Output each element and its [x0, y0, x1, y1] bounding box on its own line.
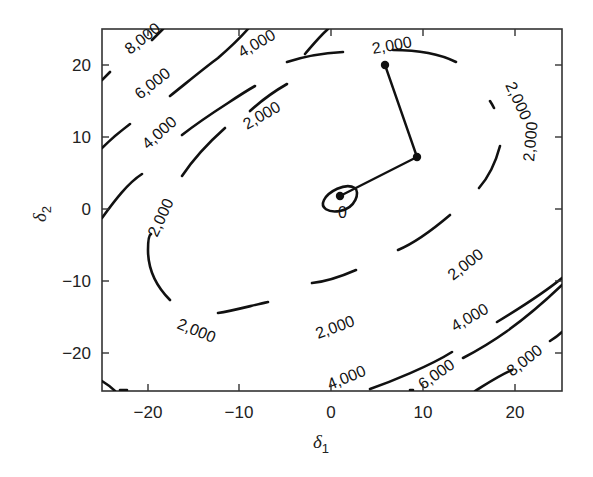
y-tick-label: 20 — [72, 56, 91, 75]
x-tick-label: −10 — [225, 403, 254, 422]
x-tick-label: 10 — [414, 403, 433, 422]
contour-8000-bottom-left — [102, 381, 115, 391]
contour-label: 2,000 — [240, 98, 283, 133]
contour-label: 2,000 — [520, 121, 540, 162]
contour-label: 8,000 — [121, 19, 163, 57]
y-tick-label: 10 — [72, 128, 91, 147]
contour-label: 8,000 — [503, 341, 545, 379]
search-point-start — [381, 61, 389, 69]
contour-label: 2,000 — [175, 315, 219, 346]
search-path-line — [340, 65, 417, 196]
contour-label: 0 — [338, 204, 347, 221]
contour-label: 2,000 — [444, 245, 486, 283]
contour-label: 2,000 — [371, 33, 413, 57]
x-axis-label-subscript: 1 — [322, 441, 329, 456]
search-path — [336, 61, 421, 200]
y-tick-label: −10 — [62, 272, 91, 291]
x-axis: −20 −10 0 10 20 δ1 — [134, 29, 525, 456]
contour-labels: 8,000 6,000 4,000 4,000 2,000 2,000 2,00… — [121, 19, 545, 393]
x-tick-label: 20 — [506, 403, 525, 422]
contour-label: 4,000 — [448, 300, 491, 335]
contour-label: 4,000 — [139, 113, 180, 152]
search-point-mid — [413, 153, 421, 161]
contour-label: 6,000 — [131, 64, 173, 102]
contour-label: 2,000 — [144, 196, 176, 240]
x-tick-label: −20 — [134, 403, 163, 422]
y-axis-label-subscript: 2 — [39, 206, 54, 213]
x-axis-label: δ1 — [313, 431, 329, 456]
contour-label: 4,000 — [235, 26, 278, 61]
contour-label: 2,000 — [313, 312, 357, 342]
x-tick-label: 0 — [326, 403, 335, 422]
contour-4000-top-left — [102, 29, 328, 218]
contour-chart: 8,000 6,000 4,000 4,000 2,000 2,000 2,00… — [0, 0, 593, 477]
y-axis-label: δ2 — [29, 206, 54, 222]
y-tick-label: 0 — [82, 200, 91, 219]
contour-label: 2,000 — [502, 79, 534, 123]
y-tick-label: −20 — [62, 344, 91, 363]
search-point-minimum — [336, 192, 344, 200]
